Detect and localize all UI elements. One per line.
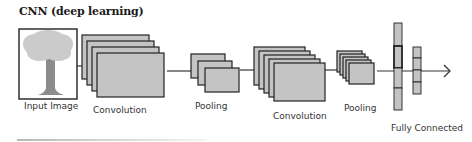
label-convolution-1: Convolution: [93, 105, 147, 115]
fc-neuron: [413, 58, 421, 70]
fully-connected-layers: [394, 23, 421, 110]
bottom-divider: [17, 139, 207, 141]
label-convolution-2: Convolution: [273, 111, 327, 121]
label-fully-connected: Fully Connected: [391, 123, 463, 133]
feature-map: [349, 63, 374, 84]
stack-conv2: [254, 47, 325, 101]
diagram-title: CNN (deep learning): [19, 5, 143, 18]
feature-map: [97, 53, 164, 97]
fc-neuron: [394, 68, 402, 88]
fc-neuron: [394, 23, 402, 46]
stack-conv1: [82, 35, 164, 97]
input-image: [19, 29, 77, 99]
fc-layer-1: [394, 23, 402, 110]
fc-neuron: [413, 70, 421, 82]
cnn-diagram: [0, 0, 472, 142]
label-input-image: Input Image: [24, 101, 78, 111]
label-pooling-1: Pooling: [195, 101, 228, 111]
fc-neuron: [394, 46, 402, 68]
fc-layer-2: [413, 47, 421, 94]
feature-map-stacks: [82, 35, 374, 101]
stack-pool1: [191, 54, 239, 92]
feature-map: [205, 68, 239, 92]
fc-neuron: [394, 88, 402, 110]
fc-neuron: [413, 82, 421, 94]
label-pooling-2: Pooling: [344, 103, 377, 113]
fc-neuron: [413, 47, 421, 58]
feature-map: [274, 63, 325, 101]
stack-pool2: [337, 51, 374, 84]
